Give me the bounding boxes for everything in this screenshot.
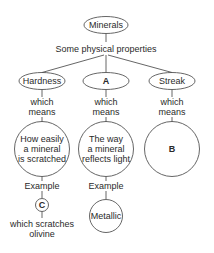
which-text: which: [17, 97, 67, 107]
b-label: B: [169, 144, 176, 154]
c-label: C: [39, 200, 46, 210]
def-line: reflects light: [76, 154, 136, 164]
streak-node: Streak: [149, 75, 195, 87]
note-line: olivine: [2, 229, 82, 239]
def-line: The way: [76, 134, 136, 144]
means-text: means: [147, 107, 197, 117]
streak-definition: B: [152, 143, 192, 155]
hardness-example-connector: Example: [12, 181, 72, 191]
def-line: a mineral: [12, 144, 72, 154]
streak-label: Streak: [159, 76, 185, 86]
hardness-label: Hardness: [23, 76, 62, 86]
a-label: A: [103, 76, 110, 86]
which-text: which: [81, 97, 131, 107]
metallic-node: Metallic: [86, 210, 126, 222]
streak-connector: which means: [147, 97, 197, 117]
root-connector-label: Some physical properties: [40, 44, 172, 54]
means-text: means: [17, 107, 67, 117]
a-example-connector: Example: [76, 181, 136, 191]
def-line: is scratched: [12, 154, 72, 164]
a-definition: The way a mineral reflects light: [76, 134, 136, 164]
c-note: which scratches olivine: [2, 219, 82, 239]
a-node: A: [83, 75, 129, 87]
def-line: a mineral: [76, 144, 136, 154]
metallic-label: Metallic: [91, 211, 122, 221]
c-node: C: [36, 199, 48, 211]
means-text: means: [81, 107, 131, 117]
hardness-connector: which means: [17, 97, 67, 117]
minerals-label: Minerals: [89, 20, 123, 30]
hardness-definition: How easily a mineral is scratched: [12, 134, 72, 164]
a-connector: which means: [81, 97, 131, 117]
which-text: which: [147, 97, 197, 107]
def-line: How easily: [12, 134, 72, 144]
note-line: which scratches: [2, 219, 82, 229]
minerals-node: Minerals: [84, 19, 128, 31]
hardness-node: Hardness: [19, 75, 65, 87]
